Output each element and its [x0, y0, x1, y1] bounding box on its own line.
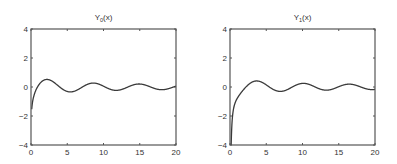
- y-tick-label: −2: [19, 112, 29, 121]
- axes-box: [230, 29, 375, 145]
- curve-y1: [231, 81, 375, 145]
- curve-y0: [32, 79, 176, 109]
- plot-y0: Y0(x) 05101520−4−2024: [19, 13, 181, 157]
- x-tick-label: 20: [371, 148, 380, 157]
- figure: Y0(x) 05101520−4−2024 Y1(x) 05101520−4−2…: [0, 0, 397, 164]
- x-tick-label: 15: [135, 148, 144, 157]
- x-tick-label: 10: [99, 148, 108, 157]
- x-tick-label: 5: [65, 148, 70, 157]
- y-tick-label: 0: [24, 83, 29, 92]
- x-tick-label: 0: [29, 148, 34, 157]
- plot-title-y0: Y0(x): [95, 13, 113, 23]
- y-tick-label: −2: [218, 112, 228, 121]
- x-tick-label: 5: [264, 148, 269, 157]
- axes-box: [31, 29, 176, 145]
- x-tick-label: 10: [298, 148, 307, 157]
- axis-ticks: [31, 29, 176, 145]
- y-tick-label: −4: [19, 141, 29, 150]
- x-tick-label: 0: [228, 148, 233, 157]
- axis-ticks: [230, 29, 375, 145]
- x-tick-label: 15: [334, 148, 343, 157]
- plot-title-y1: Y1(x): [294, 13, 312, 23]
- y-tick-label: 4: [24, 25, 29, 34]
- plot-y1: Y1(x) 05101520−4−2024: [218, 13, 380, 157]
- y-tick-label: 4: [223, 25, 228, 34]
- y-tick-label: 2: [223, 54, 228, 63]
- x-tick-label: 20: [172, 148, 181, 157]
- tick-labels: 05101520−4−2024: [19, 25, 181, 157]
- y-tick-label: −4: [218, 141, 228, 150]
- y-tick-label: 0: [223, 83, 228, 92]
- y-tick-label: 2: [24, 54, 29, 63]
